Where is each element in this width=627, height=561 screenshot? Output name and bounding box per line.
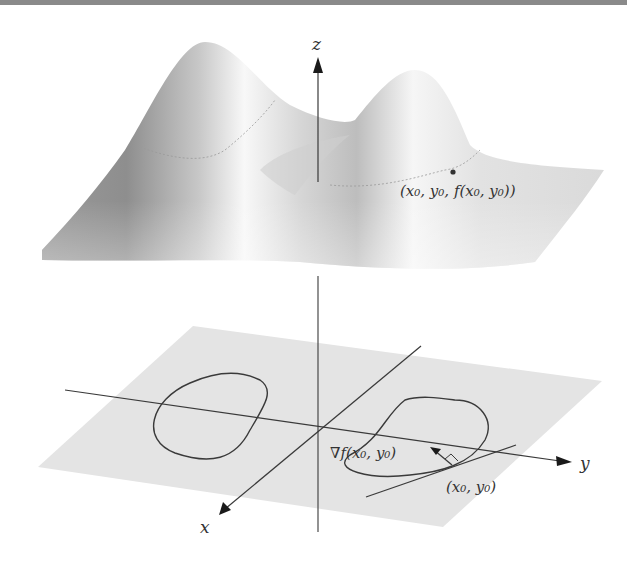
z-axis-arrowhead <box>313 57 323 73</box>
surface-point-label: (x₀, y₀, f(x₀, y₀)) <box>400 182 516 200</box>
surface-point-dot <box>450 169 455 174</box>
y-axis-label: y <box>579 453 590 473</box>
y-axis-arrowhead <box>556 456 572 466</box>
gradient-diagram: z y x (x₀, y₀, f(x₀, y₀)) ∇f(x₀, y₀) (x₀… <box>0 0 627 561</box>
gradient-label: ∇f(x₀, y₀) <box>330 444 396 462</box>
x-axis-label: x <box>200 517 210 537</box>
x-axis-arrowhead <box>219 502 231 515</box>
z-axis-label: z <box>311 34 322 54</box>
plane-point-label: (x₀, y₀) <box>446 478 496 496</box>
